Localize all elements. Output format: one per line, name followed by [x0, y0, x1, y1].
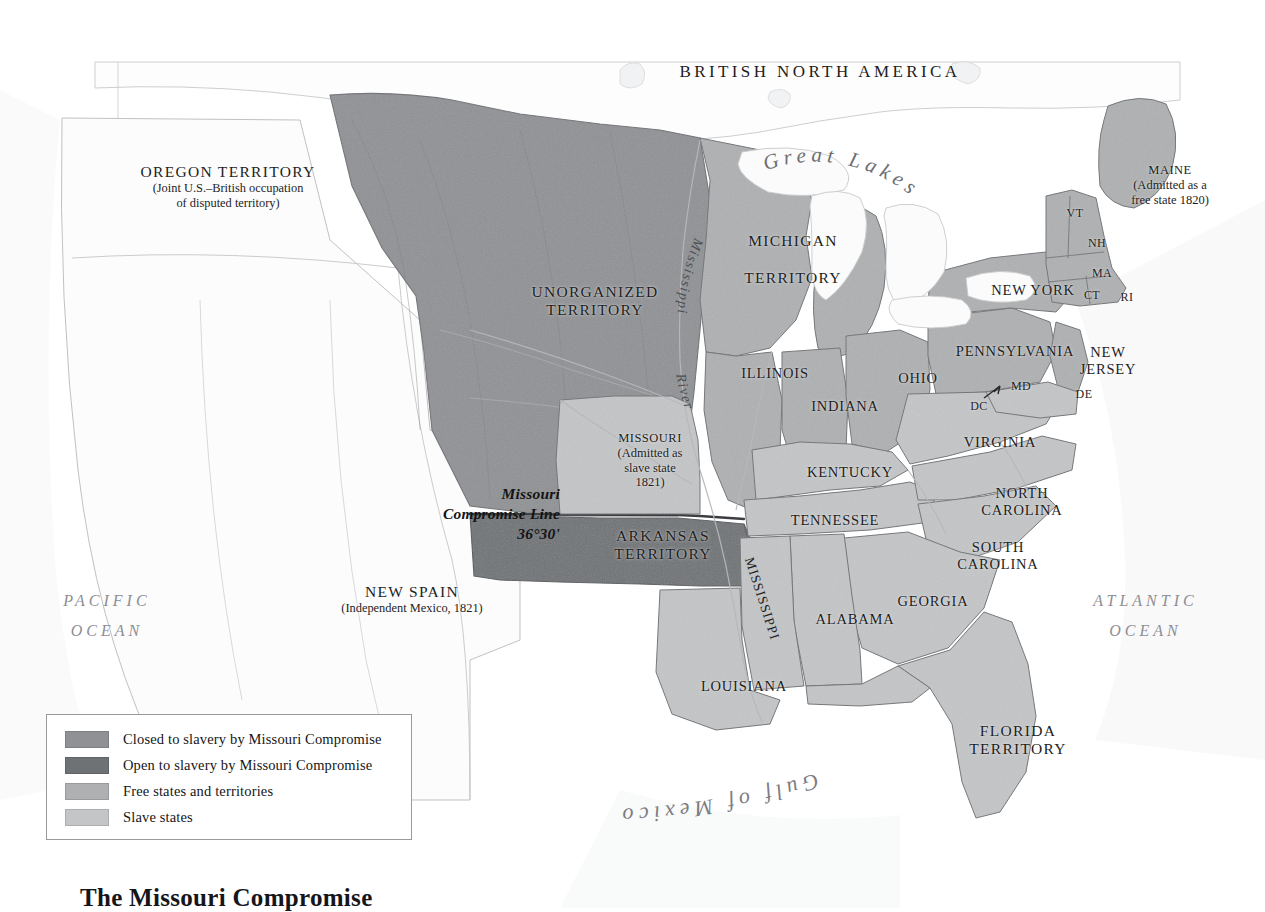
legend-slave-text: Slave states	[123, 809, 193, 826]
legend-free-text: Free states and territories	[123, 783, 273, 800]
map-caption: The Missouri Compromise	[80, 884, 373, 912]
legend-open-swatch	[65, 757, 109, 774]
map-legend: Closed to slavery by Missouri Compromise…	[46, 714, 412, 840]
legend-free-row: Free states and territories	[47, 778, 411, 804]
legend-closed-swatch	[65, 731, 109, 748]
legend-slave-row: Slave states	[47, 804, 411, 830]
legend-free-swatch	[65, 783, 109, 800]
legend-open-text: Open to slavery by Missouri Compromise	[123, 757, 372, 774]
legend-slave-swatch	[65, 809, 109, 826]
legend-closed-row: Closed to slavery by Missouri Compromise	[47, 726, 411, 752]
legend-closed-text: Closed to slavery by Missouri Compromise	[123, 731, 382, 748]
legend-open-row: Open to slavery by Missouri Compromise	[47, 752, 411, 778]
